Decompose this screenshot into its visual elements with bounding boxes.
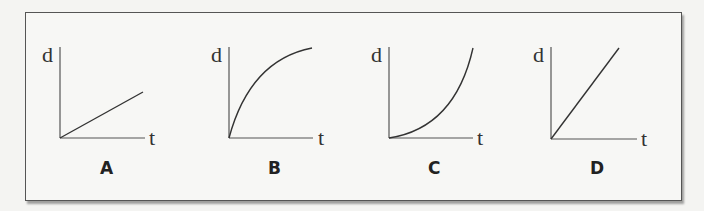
graph-d: d t D — [533, 42, 647, 178]
graph-c: d t C — [371, 42, 483, 178]
graph-label: A — [100, 158, 114, 178]
y-axis-label: d — [533, 42, 544, 67]
graph-b: d t B — [211, 42, 324, 178]
x-axis-label: t — [318, 125, 324, 150]
graph-curve — [229, 48, 312, 138]
graph-line — [60, 92, 143, 138]
graph-a: d t A — [42, 42, 155, 178]
graph-label: B — [268, 158, 281, 178]
y-axis-label: d — [211, 42, 222, 67]
distance-time-graphs: d t A d t B d t C d t D — [0, 0, 704, 211]
y-axis-label: d — [42, 42, 53, 67]
graph-label: C — [428, 158, 440, 178]
y-axis-label: d — [371, 42, 382, 67]
x-axis-label: t — [149, 125, 155, 150]
graph-curve — [389, 48, 473, 138]
x-axis-label: t — [641, 126, 647, 151]
graph-label: D — [590, 158, 604, 178]
graph-line — [551, 48, 619, 139]
x-axis-label: t — [477, 125, 483, 150]
